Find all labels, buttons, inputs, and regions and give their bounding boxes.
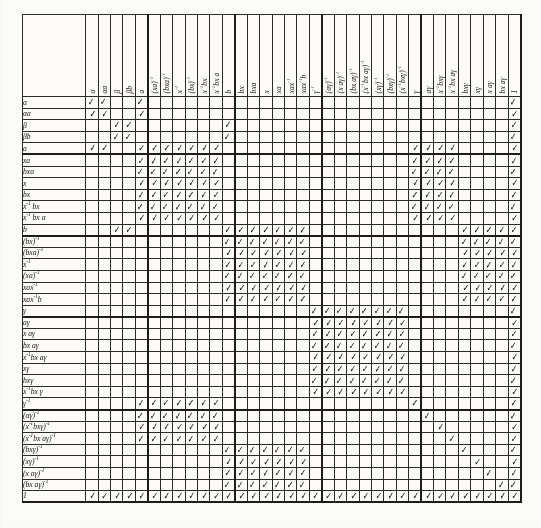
matrix-cell-empty <box>322 294 334 306</box>
check-mark-icon: ✓ <box>251 282 258 292</box>
matrix-cell-empty <box>98 247 110 259</box>
column-header-label: x-1bx a <box>213 72 220 93</box>
check-mark-icon: ✓ <box>299 445 306 456</box>
matrix-cell-empty <box>148 328 160 340</box>
matrix-cell-empty <box>235 131 247 143</box>
matrix-cell-empty <box>446 386 458 398</box>
matrix-cell-empty <box>421 305 433 317</box>
matrix-cell-empty <box>297 421 309 433</box>
matrix-cell-empty <box>98 189 110 201</box>
table-corner <box>23 15 86 97</box>
matrix-cell-empty <box>471 352 483 364</box>
matrix-cell-empty <box>409 410 421 422</box>
check-mark-icon: ✓ <box>499 491 506 501</box>
matrix-cell-empty <box>396 201 408 213</box>
matrix-cell-empty <box>371 143 383 155</box>
check-mark-icon: ✓ <box>187 167 194 177</box>
matrix-cell-empty <box>347 201 359 213</box>
matrix-cell-empty <box>210 247 222 259</box>
matrix-cell-empty <box>272 131 284 143</box>
matrix-cell-empty <box>334 212 346 224</box>
check-mark-icon: ✓ <box>474 456 481 467</box>
column-header-label: xγ <box>474 87 481 93</box>
check-mark-icon: ✓ <box>162 201 169 211</box>
matrix-cell-empty <box>272 433 284 445</box>
matrix-cell-checked: ✓ <box>297 224 309 236</box>
check-mark-icon: ✓ <box>263 294 270 304</box>
matrix-cell-empty <box>148 97 160 109</box>
matrix-cell-empty <box>334 201 346 213</box>
check-mark-icon: ✓ <box>300 468 307 478</box>
matrix-cell-empty <box>322 282 334 294</box>
matrix-cell-empty <box>247 328 259 340</box>
matrix-cell-empty <box>322 433 334 445</box>
matrix-cell-empty <box>111 352 123 364</box>
matrix-cell-empty <box>185 328 197 340</box>
check-mark-icon: ✓ <box>139 109 146 119</box>
matrix-cell-empty <box>135 120 147 132</box>
table-row: x-1bx γ✓✓✓✓✓✓✓✓✓ <box>23 386 522 398</box>
column-header: β <box>111 15 123 97</box>
matrix-cell-checked: ✓ <box>111 491 123 503</box>
column-header: α <box>86 15 98 97</box>
matrix-cell-checked: ✓ <box>185 433 197 445</box>
matrix-cell-empty <box>86 189 98 201</box>
column-header: (bx aγ)-1 <box>347 15 359 97</box>
matrix-cell-checked: ✓ <box>98 108 110 120</box>
matrix-cell-empty <box>135 259 147 271</box>
matrix-cell-checked: ✓ <box>446 201 458 213</box>
matrix-cell-empty <box>198 444 210 456</box>
matrix-cell-empty <box>446 282 458 294</box>
matrix-cell-checked: ✓ <box>222 468 234 480</box>
check-mark-icon: ✓ <box>374 364 381 374</box>
matrix-cell-empty <box>347 97 359 109</box>
check-mark-icon: ✓ <box>276 491 283 501</box>
matrix-cell-empty <box>334 108 346 120</box>
matrix-cell-checked: ✓ <box>508 468 521 480</box>
matrix-cell-empty <box>111 363 123 375</box>
matrix-cell-empty <box>384 433 396 445</box>
matrix-cell-checked: ✓ <box>396 352 408 364</box>
check-mark-icon: ✓ <box>473 294 480 305</box>
matrix-cell-empty <box>173 259 185 271</box>
check-mark-icon: ✓ <box>274 236 281 247</box>
matrix-cell-empty <box>496 143 508 155</box>
matrix-cell-empty <box>309 166 321 178</box>
row-header-label: (αγ)-1 <box>23 410 86 422</box>
matrix-cell-empty <box>359 224 371 236</box>
matrix-cell-empty <box>111 166 123 178</box>
matrix-cell-checked: ✓ <box>421 178 433 190</box>
row-header-label: aγ <box>23 317 86 329</box>
check-mark-icon: ✓ <box>275 294 282 305</box>
matrix-cell-empty <box>421 236 433 248</box>
matrix-cell-empty <box>210 270 222 282</box>
matrix-cell-empty <box>421 375 433 387</box>
matrix-cell-checked: ✓ <box>135 189 147 201</box>
matrix-cell-empty <box>235 97 247 109</box>
check-mark-icon: ✓ <box>324 305 331 315</box>
row-header-label: (bxa)-1 <box>23 247 86 259</box>
matrix-cell-empty <box>471 340 483 352</box>
matrix-cell-empty <box>98 340 110 352</box>
column-header-row: ααaββba(xa)-1(bxa)-1x-1(bx)-1x-1bxx-1bx … <box>23 15 522 97</box>
row-header-label: αa <box>23 108 86 120</box>
matrix-cell-empty <box>135 317 147 329</box>
matrix-cell-empty <box>160 97 172 109</box>
check-mark-icon: ✓ <box>412 178 419 189</box>
matrix-cell-empty <box>123 154 135 166</box>
matrix-cell-empty <box>496 97 508 109</box>
matrix-cell-checked: ✓ <box>396 363 408 375</box>
matrix-cell-checked: ✓ <box>297 236 309 248</box>
matrix-cell-checked: ✓ <box>409 201 421 213</box>
matrix-cell-empty <box>247 375 259 387</box>
matrix-cell-empty <box>86 259 98 271</box>
matrix-cell-empty <box>222 212 234 224</box>
matrix-cell-checked: ✓ <box>347 317 359 329</box>
matrix-cell-empty <box>409 305 421 317</box>
table-row: (x-1bx aγ)-1✓✓✓✓✓✓✓✓✓ <box>23 433 522 445</box>
matrix-cell-empty <box>409 317 421 329</box>
check-mark-icon: ✓ <box>349 305 356 315</box>
matrix-cell-empty <box>247 433 259 445</box>
matrix-cell-empty <box>347 212 359 224</box>
matrix-cell-empty <box>185 108 197 120</box>
